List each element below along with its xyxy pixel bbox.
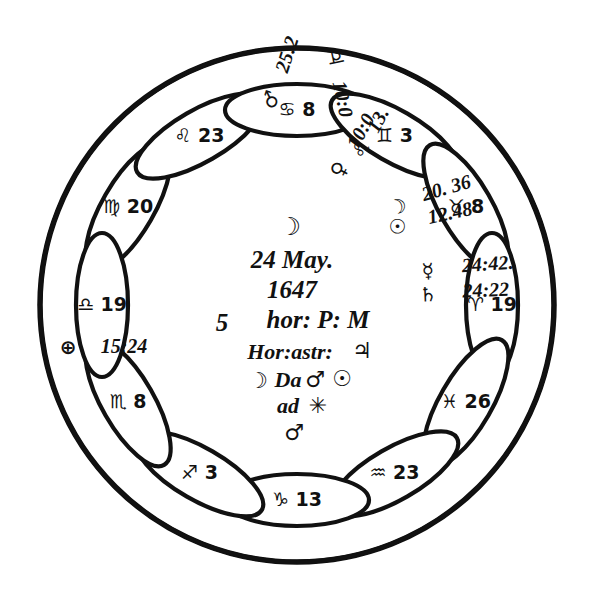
center-ad-star-icon: ✳ xyxy=(309,393,327,418)
center-da-mars-icon: ♂ xyxy=(305,367,325,392)
horoscope-figure: ♍ 20 ♌ 23 ♋ 8 ♊ 3 ♉ 8 ♈ 19 ♓ 26 ♒ 23 ♑ 1… xyxy=(0,0,595,610)
center-da-text: Da xyxy=(274,367,302,392)
wedge-sun-glyph: ☉ xyxy=(386,213,409,240)
center-inscription: ☽ 24 May. 1647 5 hor: P: M Hor:astr: ♃ ☽… xyxy=(216,212,372,445)
center-moon-icon: ☽ xyxy=(279,212,301,241)
wedge-mercury-glyph: ☿ xyxy=(421,258,435,283)
wedge-saturn-glyph: ♄ xyxy=(419,282,438,307)
wedge-saturn-value: 24:22 xyxy=(461,278,509,302)
center-da-moon-icon: ☽ xyxy=(248,368,268,393)
petal-label-cancer: ♋ 8 xyxy=(279,98,316,120)
petal-label-pisces: ♓ 26 xyxy=(441,390,491,412)
center-date: 24 May. xyxy=(250,246,333,273)
center-bottom-mars-icon: ♂ xyxy=(284,420,304,445)
center-time-rest: hor: P: M xyxy=(267,306,371,333)
wedge-fortune-value: 15:24 xyxy=(101,335,148,357)
petal-label-libra: ♎ 19 xyxy=(77,293,127,315)
petal-label-virgo: ♍ 20 xyxy=(103,195,153,217)
petal-label-capricorn: ♑ 13 xyxy=(272,488,322,510)
center-hor-astr-glyph: ♃ xyxy=(352,338,372,363)
center-year: 1647 xyxy=(267,276,319,303)
wedge-fortune-glyph: ⊕ xyxy=(60,335,77,359)
wedge-venus-glyph: ♀ xyxy=(325,157,353,181)
center-ad-text: ad xyxy=(277,393,300,418)
center-hor-astr-label: Hor:astr: xyxy=(246,339,333,364)
horoscope-wheel-svg: ♍ 20 ♌ 23 ♋ 8 ♊ 3 ♉ 8 ♈ 19 ♓ 26 ♒ 23 ♑ 1… xyxy=(0,0,595,610)
center-time-number: 5 xyxy=(216,309,229,336)
wedge-jupiter-glyph: ♃ xyxy=(322,46,349,69)
petal-label-scorpio: ♏ 8 xyxy=(110,390,147,412)
petal-label-sagittarius: ♐ 3 xyxy=(181,461,218,483)
petal-label-aquarius: ♒ 23 xyxy=(369,461,419,483)
petal-label-leo: ♌ 23 xyxy=(174,124,224,146)
wedge-mars-value: 25:2 xyxy=(270,33,303,76)
center-da-sun-icon: ☉ xyxy=(332,366,352,391)
wedge-mercury-value: 24:42. xyxy=(460,251,514,277)
